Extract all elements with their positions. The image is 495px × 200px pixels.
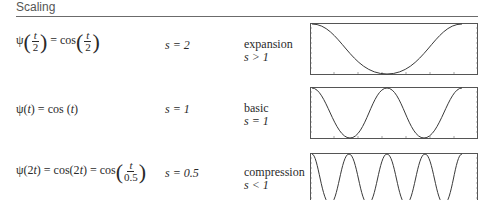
plot-expansion bbox=[310, 23, 478, 75]
cosine-curve-s05 bbox=[310, 153, 478, 200]
scale-value: s = 2 bbox=[165, 38, 190, 53]
scale-description: expansion s > 1 bbox=[244, 38, 293, 64]
section-title: Scaling bbox=[16, 0, 55, 14]
plot-basic bbox=[310, 87, 478, 139]
header-divider bbox=[16, 16, 478, 17]
fraction: t2 bbox=[32, 30, 39, 53]
fraction: t2 bbox=[84, 30, 91, 53]
scale-description: basic s = 1 bbox=[244, 102, 269, 128]
formula-expansion: ψ(t2) = cos(t2) bbox=[16, 30, 100, 53]
scale-value: s = 0.5 bbox=[165, 166, 199, 181]
fraction: t0.5 bbox=[124, 160, 138, 183]
psi-symbol: ψ bbox=[16, 33, 24, 47]
scale-value: s = 1 bbox=[165, 102, 190, 117]
formula-compression: ψ(2t) = cos(2t) = cos(t0.5) bbox=[16, 160, 146, 183]
cosine-curve-s1 bbox=[310, 87, 478, 139]
formula-basic: ψ(t) = cos (t) bbox=[16, 102, 78, 117]
plot-compression bbox=[310, 153, 478, 200]
scale-description: compression s < 1 bbox=[244, 166, 305, 192]
cosine-curve-s2 bbox=[310, 23, 478, 75]
